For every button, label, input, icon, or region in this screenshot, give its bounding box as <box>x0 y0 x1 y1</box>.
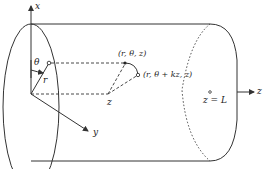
z-equals-L-label: z = L <box>203 96 227 105</box>
point-z-L <box>209 91 212 94</box>
z-axis-label: z <box>257 87 262 96</box>
point-original-label: (r, θ, z) <box>118 50 146 58</box>
cylinder-right-end-front <box>210 24 237 161</box>
y-axis <box>31 94 88 131</box>
theta-label: θ <box>34 58 39 67</box>
rotation-arc <box>125 63 138 74</box>
point-left-end <box>47 61 51 65</box>
point-rotated-label: (r, θ + kz, z) <box>143 71 192 79</box>
x-axis-label: x <box>35 2 40 11</box>
dashed-z-to-point <box>108 64 125 94</box>
y-axis-label: y <box>93 128 98 137</box>
point-rotated <box>136 73 139 76</box>
dashed-z-to-rotated <box>108 75 138 94</box>
cylinder-right-end-back <box>182 24 210 161</box>
z-projection-label: z <box>107 98 112 107</box>
radius-label: r <box>43 76 47 85</box>
theta-arc <box>31 70 43 73</box>
diagram-graphics <box>0 0 264 169</box>
cylinder-diagram: x y z θ r (r, θ, z) (r, θ + kz, z) z z =… <box>0 0 264 169</box>
